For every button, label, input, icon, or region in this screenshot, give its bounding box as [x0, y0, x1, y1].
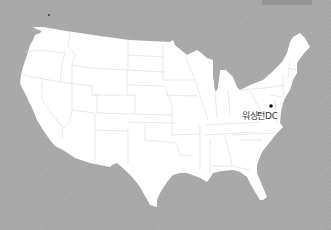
us-map — [0, 0, 331, 230]
washington-dc-label: 워싱턴DC — [242, 109, 278, 122]
washington-dc-marker[interactable] — [269, 104, 273, 108]
